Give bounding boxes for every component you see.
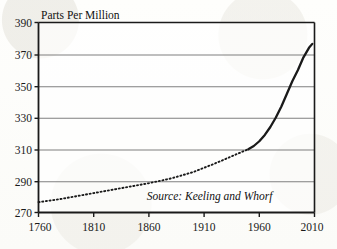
chart-screenshot: 390 370 350 330 310 290 270 1760 1810 18… [0, 0, 337, 249]
y-axis-tick-labels: 390 370 350 330 310 290 270 [15, 17, 33, 219]
co2-parts-per-million-chart: 390 370 350 330 310 290 270 1760 1810 18… [0, 0, 337, 249]
ytick-label-390: 390 [15, 17, 33, 29]
xtick-label-1760: 1760 [29, 221, 52, 233]
xtick-label-2010: 2010 [301, 221, 324, 233]
ytick-label-330: 330 [15, 112, 33, 124]
y-axis-title: Parts Per Million [41, 9, 120, 21]
ytick-label-310: 310 [15, 144, 33, 156]
ytick-label-350: 350 [15, 81, 33, 93]
source-note: Source: Keeling and Whorf [147, 190, 275, 203]
xtick-label-1910: 1910 [193, 221, 216, 233]
ytick-label-370: 370 [15, 49, 33, 61]
ytick-label-290: 290 [15, 176, 33, 188]
xtick-label-1960: 1960 [248, 221, 271, 233]
xtick-label-1860: 1860 [137, 221, 160, 233]
ytick-label-270: 270 [15, 207, 33, 219]
plot-area-background [39, 23, 315, 213]
xtick-label-1810: 1810 [82, 221, 105, 233]
x-axis-tick-labels: 1760 1810 1860 1910 1960 2010 [29, 221, 324, 233]
